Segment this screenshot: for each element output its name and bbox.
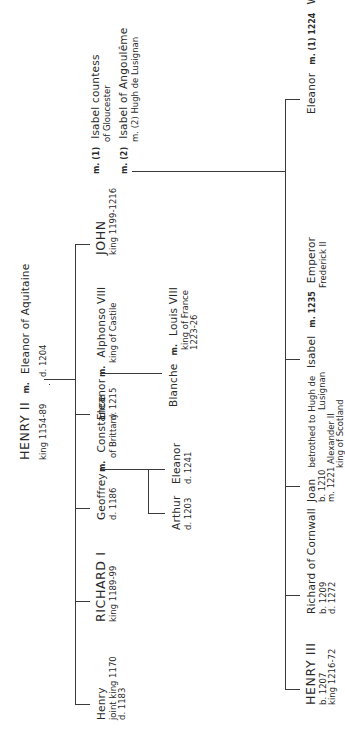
marriage-marker: m. xyxy=(170,344,179,355)
isabel-of-gloucester-title: of Gloucester xyxy=(103,28,112,174)
root-connector xyxy=(49,384,50,385)
henry-iii-reign: king 1216-72 xyxy=(328,642,337,705)
alphonso-name: Alphonso VIII xyxy=(95,287,107,358)
marriage-marker: m. xyxy=(22,382,31,393)
henry-ii-name: HENRY II xyxy=(17,402,32,460)
drop-eleanor-montfort xyxy=(285,99,300,100)
eleanor-montfort-node: Eleanor m. (1) 1224 William Marshal xyxy=(302,0,319,114)
alphonso-title: king of Castile xyxy=(109,287,118,377)
richard-i-reign: king 1189-99 xyxy=(109,552,118,622)
arthur-name: Arthur xyxy=(170,496,182,530)
geoffrey-node: Geoffrey d. 1186 xyxy=(92,473,118,520)
richard-i-name: RICHARD I xyxy=(93,552,108,622)
joan-node: Joan betrothed to Hugh de Lusignan b. 12… xyxy=(302,372,344,502)
drop-arthur xyxy=(148,513,165,514)
richard-of-cornwall-name: Richard of Cornwall xyxy=(305,508,317,614)
drop-joan xyxy=(285,486,300,487)
henry-iii-name: HENRY III xyxy=(303,642,318,705)
drop-richard-of-cornwall xyxy=(285,595,300,596)
marriage-marker-1: m. (1) xyxy=(92,147,101,174)
henry-ii-node: HENRY II m. Eleanor of Aquitaine king 11… xyxy=(16,264,50,460)
marriage-marker-2: m. (2) xyxy=(120,147,129,174)
isabel-of-angouleme-name: Isabel of Angoulême xyxy=(117,28,129,139)
john-reign: king 1199-1216 xyxy=(109,188,118,255)
isabel-node: Isabel m. 1235 Emperor Frederick II xyxy=(302,237,328,368)
eleanor-of-castile-node: Eleanor d. 1215 xyxy=(92,379,118,420)
arthur-node: Arthur d. 1203 xyxy=(167,496,193,530)
frederick-ii-name: Frederick II xyxy=(319,237,328,368)
louis-viii-reign: 1223-26 xyxy=(190,287,199,407)
henry-name: Henry xyxy=(95,687,107,720)
joan-betrothal: betrothed to Hugh de xyxy=(307,376,317,468)
eleanor-of-brittany-node: Eleanor d. 1241 xyxy=(167,443,193,484)
drop-john xyxy=(75,244,90,245)
alphonso-node: m. Alphonso VIII king of Castile xyxy=(92,287,118,377)
henry-ii-reign: king 1154-89 xyxy=(39,382,48,460)
richard-of-cornwall-death: d. 1272 xyxy=(328,508,337,614)
isabel-of-gloucester-name: Isabel countess xyxy=(89,54,101,138)
drop-isabel xyxy=(285,359,300,360)
henry-iii-node: HENRY III b. 1207 king 1216-72 xyxy=(302,642,337,705)
blanche-name: Blanche xyxy=(167,364,179,408)
isabel-name: Isabel xyxy=(305,336,317,368)
geoffrey-name: Geoffrey xyxy=(95,473,107,520)
eleanor-name: Eleanor xyxy=(305,73,317,114)
blanche-node: Blanche m. Louis VIII king of France 122… xyxy=(164,287,199,407)
john-marriages: m. (1) Isabel countess of Gloucester m. … xyxy=(86,28,139,174)
joan-name: Joan xyxy=(305,479,317,502)
root-drop-line xyxy=(44,379,75,380)
drop-eleanor-of-brittany xyxy=(148,469,165,470)
john-name: JOHN xyxy=(93,220,108,255)
william-marshal-name: William Marshal xyxy=(305,0,317,4)
marriage-marker: m. xyxy=(98,366,107,377)
marriage-marker: m. 1235 xyxy=(308,291,317,327)
drop-henry-iii xyxy=(285,689,300,690)
geoffrey-death: d. 1186 xyxy=(109,473,118,520)
frederick-ii-emperor: Emperor xyxy=(305,237,317,283)
eleanor-of-aquitaine-death: d. 1204 xyxy=(39,344,48,376)
john-marriage-drop xyxy=(132,171,285,172)
louis-viii-name: Louis VIII xyxy=(167,287,179,336)
henry-young-king-node: Henry joint king 1170 d. 1183 xyxy=(92,656,127,720)
eleanor-of-aquitaine-name: Eleanor of Aquitaine xyxy=(19,264,31,374)
arthur-death: d. 1203 xyxy=(184,496,193,530)
marriage-marker: m. xyxy=(98,461,107,472)
henry-death: d. 1183 xyxy=(118,656,127,720)
geoffrey-children-bar xyxy=(148,469,149,514)
richard-i-node: RICHARD I king 1189-99 xyxy=(92,552,118,622)
generation-1-bar xyxy=(75,245,76,705)
drop-henry xyxy=(75,704,90,705)
eleanor-death: d. 1215 xyxy=(109,379,118,420)
drop-richard xyxy=(75,601,90,602)
drop-eleanor xyxy=(75,414,90,415)
alexander-ii-title: king of Scotland xyxy=(336,372,345,502)
eleanor-name: Eleanor xyxy=(95,379,107,420)
eleanor-of-brittany-death: d. 1241 xyxy=(184,443,193,484)
john-node: JOHN king 1199-1216 xyxy=(92,188,118,255)
marriage-marker-1: m. (1) 1224 xyxy=(308,13,317,65)
eleanor-of-brittany-name: Eleanor xyxy=(170,443,182,484)
generation-3-bar xyxy=(285,100,286,690)
geoffrey-marriage-drop xyxy=(100,469,148,470)
richard-of-cornwall-node: Richard of Cornwall b. 1209 d. 1272 xyxy=(302,508,337,614)
drop-geoffrey xyxy=(75,508,90,509)
eleanor-marriage-drop xyxy=(100,373,162,374)
isabel-remarriage: m. (2) Hugh de Lusignan xyxy=(131,28,140,174)
